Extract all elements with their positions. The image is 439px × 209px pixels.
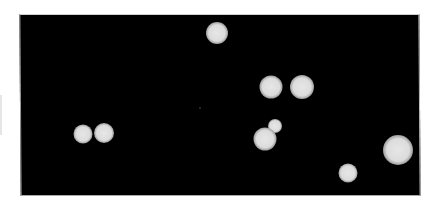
faint-dot-1: [199, 107, 201, 109]
particle-9: [339, 164, 358, 183]
particle-4: [74, 125, 93, 144]
particle-1: [206, 22, 228, 44]
particle-5: [94, 123, 114, 143]
particle-3: [290, 75, 314, 99]
particle-2: [260, 76, 283, 99]
particles-layer: [0, 0, 439, 209]
particle-8: [383, 135, 413, 165]
particle-7: [254, 128, 277, 151]
